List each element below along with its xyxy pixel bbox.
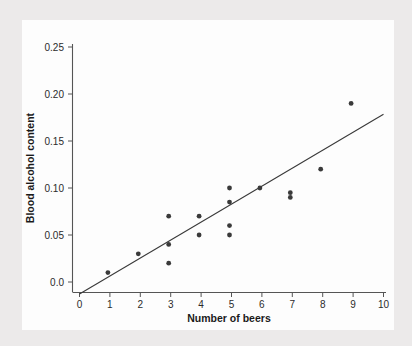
x-tick-label: 7 [290, 299, 296, 310]
chart-svg: 0.00.050.100.150.200.25 012345678910 Num… [0, 0, 412, 346]
x-tick-label: 1 [107, 299, 113, 310]
y-tick-label: 0.0 [50, 277, 64, 288]
data-point [227, 223, 232, 228]
y-axis-label: Blood alcohol content [24, 112, 36, 223]
x-tick-label: 5 [229, 299, 235, 310]
data-point [166, 242, 171, 247]
x-tick-label: 4 [198, 299, 204, 310]
x-tick-group: 012345678910 [77, 293, 390, 311]
scatter-plot-figure: 0.00.050.100.150.200.25 012345678910 Num… [0, 0, 412, 346]
x-tick-label: 0 [77, 299, 83, 310]
data-point [288, 195, 293, 200]
data-point [227, 186, 232, 191]
x-tick-label: 10 [378, 299, 390, 310]
x-tick-label: 6 [259, 299, 265, 310]
y-tick-label: 0.25 [45, 42, 65, 53]
data-point [349, 101, 354, 106]
y-tick-label: 0.10 [45, 183, 65, 194]
data-point [197, 214, 202, 219]
data-points-group [106, 101, 354, 275]
x-tick-label: 8 [320, 299, 326, 310]
data-point [227, 200, 232, 205]
x-axis-label: Number of beers [187, 312, 271, 324]
x-tick-label: 2 [138, 299, 144, 310]
data-point [106, 270, 111, 275]
data-point [258, 186, 263, 191]
data-point [166, 261, 171, 266]
data-point [227, 233, 232, 238]
data-point [166, 214, 171, 219]
data-point [288, 190, 293, 195]
regression-line [80, 114, 384, 294]
x-tick-label: 3 [168, 299, 174, 310]
data-point [136, 251, 141, 256]
y-tick-group: 0.00.050.100.150.200.25 [45, 42, 73, 288]
data-point [318, 167, 323, 172]
y-tick-label: 0.15 [45, 136, 65, 147]
x-tick-label: 9 [350, 299, 356, 310]
y-tick-label: 0.20 [45, 89, 65, 100]
y-tick-label: 0.05 [45, 230, 65, 241]
data-point [197, 233, 202, 238]
